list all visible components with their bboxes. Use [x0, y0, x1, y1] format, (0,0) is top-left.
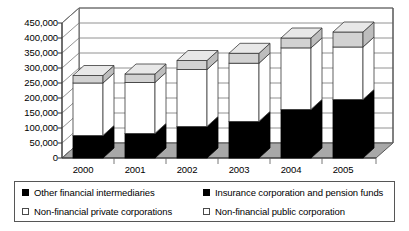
legend-swatch-icon [22, 208, 29, 215]
legend-swatch-icon [203, 208, 210, 215]
x-tick-label-2002: 2002 [167, 165, 207, 175]
plot-area: 450,000 400,000 350,000 300,000 250,000 … [0, 0, 409, 176]
legend-label: Insurance corporation and pension funds [215, 187, 383, 198]
x-axis-labels: 2000 2001 2002 2003 2004 2005 [0, 0, 409, 176]
legend-item-non-financial-private-corporations[interactable]: Non-financial private corporations [22, 206, 172, 217]
x-tick-label-2004: 2004 [271, 165, 311, 175]
legend-row: Non-financial private corporations Non-f… [15, 202, 394, 221]
x-tick-label-2003: 2003 [219, 165, 259, 175]
legend-row: Other financial intermediaries Insurance… [15, 183, 394, 202]
x-tick-label-2005: 2005 [323, 165, 363, 175]
legend-label: Other financial intermediaries [34, 187, 155, 198]
x-tick-label-2000: 2000 [63, 165, 103, 175]
legend-label: Non-financial private corporations [34, 206, 172, 217]
x-tick-label-2001: 2001 [115, 165, 155, 175]
legend-item-non-financial-public-corporation[interactable]: Non-financial public corporation [203, 206, 345, 217]
legend-label: Non-financial public corporation [215, 206, 345, 217]
legend-swatch-icon [203, 189, 210, 196]
stacked-bar-chart: 450,000 400,000 350,000 300,000 250,000 … [0, 0, 409, 231]
legend-swatch-icon [22, 189, 29, 196]
legend-item-other-financial-intermediaries[interactable]: Other financial intermediaries [22, 187, 155, 198]
chart-legend: Other financial intermediaries Insurance… [14, 181, 395, 222]
legend-item-insurance-corporation-and-pension-funds[interactable]: Insurance corporation and pension funds [203, 187, 383, 198]
